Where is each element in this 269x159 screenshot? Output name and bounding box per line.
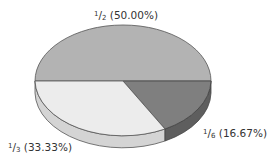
label-sixth: 1/6 (16.67%) (203, 126, 267, 142)
label-third: 1/3 (33.33%) (8, 140, 72, 156)
label-half: 1/2 (50.00%) (94, 8, 158, 24)
slice-half (35, 25, 211, 81)
